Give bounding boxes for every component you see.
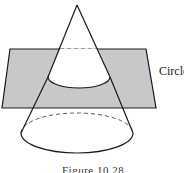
- cone-base-back: [21, 113, 133, 133]
- cone-base-front: [21, 133, 133, 153]
- cone-plane-diagram: [0, 0, 184, 173]
- figure-caption: Figure 10.28: [62, 164, 124, 173]
- circle-label: Circle: [159, 64, 184, 79]
